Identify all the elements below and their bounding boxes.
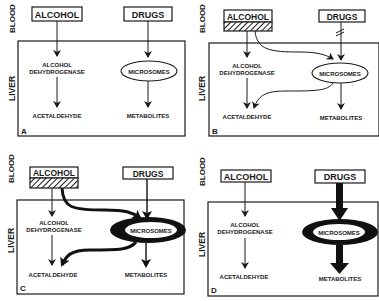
liver-label: LIVER bbox=[6, 228, 16, 253]
blood-label: BLOOD bbox=[198, 4, 207, 33]
blood-label: BLOOD bbox=[8, 4, 17, 33]
alcohol-hatch bbox=[30, 178, 78, 188]
metabolites-label: METABOLITES bbox=[125, 272, 168, 278]
metabolites-label: METABOLITES bbox=[320, 115, 363, 121]
blood-label: BLOOD bbox=[7, 154, 16, 183]
acetaldehyde-label: ACETALDEHYDE bbox=[223, 114, 272, 120]
microsomes-label: MICROSOMES bbox=[128, 69, 170, 75]
panel-d: BLOOD LIVER ALCOHOL DRUGS ALCOHOL DEHYDR… bbox=[197, 157, 378, 296]
alcohol-label: ALCOHOL bbox=[33, 168, 75, 178]
microsomes-label: MICROSOMES bbox=[130, 228, 172, 234]
microsomes-label: MICROSOMES bbox=[319, 71, 361, 77]
acetaldehyde-label: ACETALDEHYDE bbox=[29, 272, 78, 278]
adh-label-line1: ALCOHOL bbox=[232, 63, 262, 69]
blocked-icon bbox=[336, 29, 344, 36]
metabolites-label: METABOLITES bbox=[127, 113, 170, 119]
panel-letter-a: A bbox=[21, 127, 27, 136]
panel-letter-c: C bbox=[20, 284, 26, 293]
panel-b: BLOOD LIVER ALCOHOL DRUGS ALCOHOL DEHYDR… bbox=[197, 4, 379, 136]
microsomes-label: MICROSOMES bbox=[318, 230, 360, 236]
panel-c: BLOOD LIVER ALCOHOL DRUGS ALCOHOL DEHYDR… bbox=[6, 154, 186, 294]
liver-label: LIVER bbox=[197, 232, 207, 257]
alcohol-hatch bbox=[224, 22, 272, 31]
adh-label-line2: DEHYDROGENASE bbox=[219, 70, 274, 76]
arrow-microsomes-to-acetaldehyde bbox=[254, 83, 333, 108]
metabolites-label: METABOLITES bbox=[319, 276, 362, 282]
adh-label-line2: DEHYDROGENASE bbox=[26, 227, 81, 233]
blood-label: BLOOD bbox=[198, 157, 207, 186]
drugs-label: DRUGS bbox=[132, 10, 165, 20]
adh-label-line1: ALCOHOL bbox=[230, 222, 260, 228]
adh-label-line1: ALCOHOL bbox=[42, 62, 72, 68]
acetaldehyde-label: ACETALDEHYDE bbox=[220, 274, 269, 280]
liver-label: LIVER bbox=[197, 76, 207, 101]
acetaldehyde-label: ACETALDEHYDE bbox=[33, 113, 82, 119]
alcohol-label: ALCOHOL bbox=[35, 10, 80, 20]
drugs-label: DRUGS bbox=[133, 169, 164, 179]
liver-label: LIVER bbox=[7, 76, 17, 101]
drugs-label: DRUGS bbox=[327, 12, 358, 22]
alcohol-label: ALCOHOL bbox=[227, 12, 269, 22]
arrow-alcohol-to-microsomes bbox=[255, 31, 333, 59]
panel-letter-b: B bbox=[212, 127, 218, 136]
liver-box bbox=[209, 43, 379, 136]
arrow-alcohol-to-microsomes bbox=[62, 188, 140, 218]
adh-label-line2: DEHYDROGENASE bbox=[217, 229, 272, 235]
adh-label-line2: DEHYDROGENASE bbox=[29, 69, 84, 75]
arrow-microsomes-to-acetaldehyde bbox=[62, 242, 136, 265]
alcohol-drug-metabolism-diagram: BLOOD LIVER ALCOHOL DRUGS ALCOHOL DEHYDR… bbox=[0, 0, 379, 301]
liver-box bbox=[17, 200, 184, 294]
liver-box bbox=[18, 41, 185, 136]
alcohol-label: ALCOHOL bbox=[224, 172, 269, 182]
arrow-microsomes-to-metabolites-thick bbox=[330, 245, 349, 274]
panel-a: BLOOD LIVER ALCOHOL DRUGS ALCOHOL DEHYDR… bbox=[7, 4, 185, 136]
drugs-label: DRUGS bbox=[324, 172, 357, 182]
panel-letter-d: D bbox=[211, 286, 217, 295]
adh-label-line1: ALCOHOL bbox=[39, 220, 69, 226]
